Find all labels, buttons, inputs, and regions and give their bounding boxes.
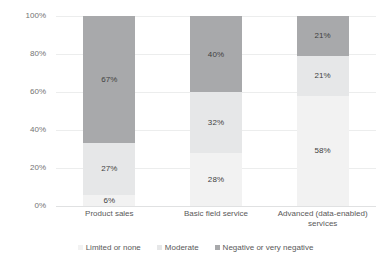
bar-segment[interactable]: 40% (190, 16, 242, 92)
bar-segment-label: 6% (103, 196, 115, 205)
x-axis: Product salesBasic field serviceAdvanced… (56, 209, 376, 237)
legend-swatch-icon (78, 245, 83, 250)
chart-legend: Limited or noneModerateNegative or very … (0, 243, 391, 252)
x-axis-category-label: Basic field service (163, 209, 270, 237)
legend-label: Limited or none (86, 243, 141, 252)
bar-segment-label: 21% (315, 71, 331, 80)
bar-segment-label: 58% (315, 146, 331, 155)
bar-segment[interactable]: 32% (190, 92, 242, 153)
x-axis-category-label: Advanced (data-enabled)services (269, 209, 376, 237)
y-tick-label-80: 80% (30, 50, 46, 58)
bar-segment[interactable]: 58% (297, 96, 349, 206)
gridline-0 (56, 206, 376, 207)
y-tick-label-60: 60% (30, 88, 46, 96)
x-axis-category-line: services (271, 219, 374, 229)
x-axis-category-line: Advanced (data-enabled) (271, 209, 374, 219)
y-tick-label-0: 0% (34, 202, 46, 210)
bar-stack[interactable]: 67%27%6% (83, 16, 135, 206)
y-axis: 100% 80% 60% 40% 20% 0% (0, 16, 52, 206)
legend-swatch-icon (215, 245, 220, 250)
bar-segment[interactable]: 6% (83, 195, 135, 206)
bar-segment-label: 21% (315, 31, 331, 40)
bar-segment[interactable]: 67% (83, 16, 135, 143)
bar-segment-label: 40% (208, 50, 224, 59)
bar-segment-label: 32% (208, 118, 224, 127)
y-tick-label-20: 20% (30, 164, 46, 172)
bar-segment-label: 67% (101, 75, 117, 84)
bar-segment[interactable]: 21% (297, 16, 349, 56)
bar-segment[interactable]: 27% (83, 143, 135, 194)
bars-layer: 67%27%6%40%32%28%21%21%58% (56, 16, 376, 206)
bar-stack[interactable]: 21%21%58% (297, 16, 349, 206)
bar-segment-label: 27% (101, 164, 117, 173)
x-axis-category-line: Basic field service (165, 209, 268, 219)
legend-label: Negative or very negative (223, 243, 314, 252)
bar-group: 40%32%28% (163, 16, 270, 206)
bar-segment[interactable]: 21% (297, 56, 349, 96)
bar-group: 21%21%58% (269, 16, 376, 206)
x-axis-category-label: Product sales (56, 209, 163, 237)
legend-item[interactable]: Moderate (157, 243, 199, 252)
x-axis-category-line: Product sales (58, 209, 161, 219)
bar-group: 67%27%6% (56, 16, 163, 206)
bar-stack[interactable]: 40%32%28% (190, 16, 242, 206)
plot-area: 67%27%6%40%32%28%21%21%58% (56, 16, 376, 206)
y-tick-label-100: 100% (26, 12, 46, 20)
y-tick-label-40: 40% (30, 126, 46, 134)
bar-segment[interactable]: 28% (190, 153, 242, 206)
legend-item[interactable]: Limited or none (78, 243, 141, 252)
legend-label: Moderate (165, 243, 199, 252)
stacked-bar-chart: 100% 80% 60% 40% 20% 0% 67%27%6%40%32%28… (0, 0, 391, 264)
legend-swatch-icon (157, 245, 162, 250)
bar-segment-label: 28% (208, 175, 224, 184)
legend-item[interactable]: Negative or very negative (215, 243, 314, 252)
